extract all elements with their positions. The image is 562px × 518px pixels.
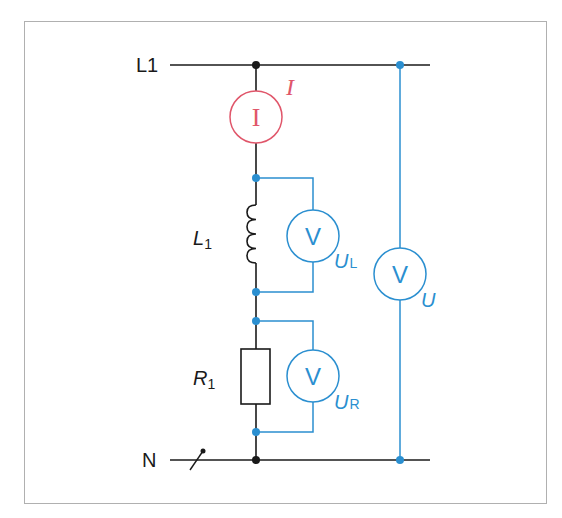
voltmeter-inductor: V UL xyxy=(252,174,357,296)
l1-label: L1 xyxy=(136,54,158,76)
current-label: I xyxy=(285,74,295,100)
junction-dot xyxy=(252,288,260,296)
inductor-coil-icon xyxy=(247,205,256,263)
resistor: R1 xyxy=(193,349,270,404)
voltmeter-symbol: V xyxy=(392,261,408,288)
circuit-diagram: I I L1 R1 V UL V UR V U xyxy=(0,0,562,518)
inductor-label: L1 xyxy=(193,227,212,252)
resistor-label: R1 xyxy=(193,367,215,392)
total-voltage-label: U xyxy=(421,289,436,311)
resistor-voltage-label: UR xyxy=(334,391,360,413)
junction-dot xyxy=(252,428,260,436)
ammeter-symbol: I xyxy=(252,103,261,132)
neutral-conductor xyxy=(170,449,430,471)
resistor-icon xyxy=(241,349,270,404)
junction-dot xyxy=(252,174,260,182)
voltmeter-total: V U xyxy=(374,61,436,464)
junction-dot xyxy=(252,61,260,69)
voltmeter-symbol: V xyxy=(305,223,321,250)
voltmeter-symbol: V xyxy=(305,363,321,390)
junction-dot xyxy=(252,317,260,325)
junction-dot xyxy=(252,456,260,464)
ammeter: I I xyxy=(230,74,295,143)
junction-dot xyxy=(396,456,404,464)
neutral-label: N xyxy=(142,449,156,471)
junction-dot xyxy=(396,61,404,69)
inductor-voltage-label: UL xyxy=(334,250,357,272)
inductor: L1 xyxy=(193,205,256,263)
